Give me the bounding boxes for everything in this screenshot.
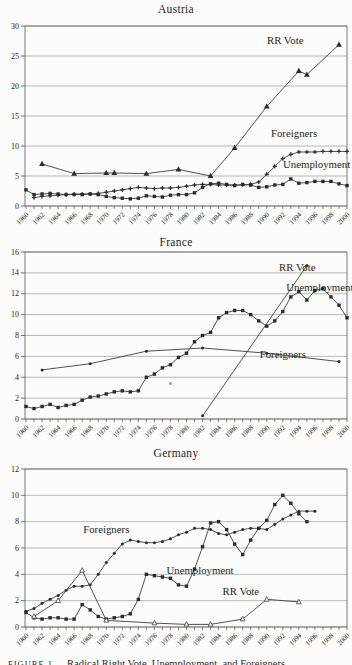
- scanned-figure-page: Austria 05101520253019601962196419661968…: [0, 0, 352, 665]
- y-tick-label: 15: [11, 112, 19, 121]
- x-tick-label: 2000: [336, 210, 352, 226]
- x-tick-label: 2000: [336, 631, 352, 647]
- x-tick-label: 1998: [320, 423, 336, 439]
- series-foreigners: [25, 510, 317, 613]
- y-tick-label: 14: [11, 268, 19, 277]
- y-tick-label: 10: [11, 310, 19, 319]
- germany-chart: 0246810121960196219641966196819701972197…: [0, 461, 352, 665]
- x-tick-label: 1972: [111, 210, 127, 226]
- y-tick-label: 12: [11, 289, 19, 298]
- x-tick-label: 1966: [63, 210, 79, 226]
- y-tick-label: 0: [15, 202, 19, 211]
- figure-caption: FIGURE 1Radical Right Vote, Unemployment…: [8, 658, 352, 665]
- x-tick-label: 1966: [63, 631, 79, 647]
- y-tick-label: 25: [11, 52, 19, 61]
- x-tick-label: 1986: [224, 423, 240, 439]
- x-tick-label: 1962: [31, 210, 47, 226]
- x-tick-label: 1988: [240, 423, 256, 439]
- y-tick-label: 10: [11, 491, 19, 500]
- stray-scan-mark: [169, 382, 172, 385]
- x-tick-label: 1994: [288, 210, 304, 226]
- series-line-rr-vote: [42, 45, 339, 176]
- y-tick-label: 10: [11, 142, 19, 151]
- series-label-foreigners: Foreigners: [271, 127, 317, 139]
- x-tick-label: 1996: [304, 631, 320, 647]
- x-tick-label: 1982: [191, 631, 207, 647]
- x-tick-label: 1972: [111, 631, 127, 647]
- series-label-unemployment: Unemployment: [286, 281, 352, 293]
- series-line-foreigners: [26, 511, 315, 611]
- series-label-foreigners: Foreigners: [83, 523, 129, 535]
- x-tick-label: 1968: [79, 423, 95, 439]
- x-tick-label: 1980: [175, 423, 191, 439]
- x-tick-label: 1970: [95, 631, 111, 647]
- x-tick-label: 1962: [31, 631, 47, 647]
- y-tick-label: 30: [11, 22, 19, 31]
- x-tick-label: 1980: [175, 631, 191, 647]
- y-tick-label: 8: [15, 331, 19, 340]
- y-tick-label: 2: [15, 394, 19, 403]
- chart-title-germany: Germany: [0, 447, 352, 459]
- x-tick-label: 1988: [240, 210, 256, 226]
- x-tick-label: 1976: [143, 210, 159, 226]
- series-label-rr-vote: RR Vote: [267, 34, 304, 46]
- france-chart: 0246810121416196019621964196619681970197…: [0, 248, 352, 452]
- x-tick-label: 1964: [47, 423, 63, 439]
- series-unemployment: [24, 177, 348, 200]
- series-label-unemployment: Unemployment: [166, 564, 233, 576]
- x-tick-label: 1962: [31, 423, 47, 439]
- x-tick-label: 1990: [256, 423, 272, 439]
- austria-chart: 0510152025301960196219641966196819701972…: [0, 14, 352, 240]
- y-tick-label: 6: [15, 544, 19, 553]
- x-tick-label: 1992: [272, 210, 288, 226]
- x-tick-label: 1974: [127, 423, 143, 439]
- x-tick-label: 1978: [159, 210, 175, 226]
- x-tick-label: 2000: [336, 423, 352, 439]
- x-tick-label: 1968: [79, 210, 95, 226]
- x-tick-label: 1960: [15, 423, 31, 439]
- x-tick-label: 1996: [304, 423, 320, 439]
- x-tick-label: 1972: [111, 423, 127, 439]
- x-tick-label: 1974: [127, 210, 143, 226]
- x-tick-label: 1960: [15, 210, 31, 226]
- chart-title-france: France: [0, 236, 352, 248]
- x-tick-label: 1966: [63, 423, 79, 439]
- x-tick-label: 1986: [224, 631, 240, 647]
- x-tick-label: 1978: [159, 631, 175, 647]
- x-tick-label: 1996: [304, 210, 320, 226]
- x-tick-label: 1970: [95, 423, 111, 439]
- x-tick-label: 1992: [272, 631, 288, 647]
- x-tick-label: 1998: [320, 631, 336, 647]
- x-tick-label: 1964: [47, 210, 63, 226]
- x-tick-label: 1982: [191, 423, 207, 439]
- x-tick-label: 1980: [175, 210, 191, 226]
- x-tick-label: 1994: [288, 631, 304, 647]
- series-rr-vote: [32, 568, 302, 626]
- x-tick-label: 1976: [143, 423, 159, 439]
- x-tick-label: 1984: [207, 210, 223, 226]
- x-tick-label: 1986: [224, 210, 240, 226]
- y-tick-label: 0: [15, 623, 19, 632]
- y-tick-label: 6: [15, 352, 19, 361]
- grid-and-axes: 0246810121960196219641966196819701972197…: [11, 465, 352, 648]
- y-tick-label: 16: [11, 248, 19, 257]
- series-label-rr-vote: RR Vote: [223, 585, 260, 597]
- x-tick-label: 1984: [207, 631, 223, 647]
- x-tick-label: 1978: [159, 423, 175, 439]
- grid-and-axes: 0510152025301960196219641966196819701972…: [11, 22, 352, 227]
- x-tick-label: 1990: [256, 631, 272, 647]
- y-tick-label: 20: [11, 82, 19, 91]
- x-tick-label: 1990: [256, 210, 272, 226]
- x-tick-label: 1992: [272, 423, 288, 439]
- x-tick-label: 1976: [143, 631, 159, 647]
- x-tick-label: 1968: [79, 631, 95, 647]
- y-tick-label: 4: [15, 570, 19, 579]
- figure-caption-text: Radical Right Vote, Unemployment, and Fo…: [67, 658, 285, 665]
- x-tick-label: 1960: [15, 631, 31, 647]
- y-tick-label: 5: [15, 172, 19, 181]
- x-tick-label: 1984: [207, 423, 223, 439]
- series-label-foreigners: Foreigners: [260, 348, 306, 360]
- series-line-rr-vote: [34, 570, 299, 624]
- x-tick-label: 1988: [240, 631, 256, 647]
- figure-caption-prefix: FIGURE 1: [8, 659, 53, 665]
